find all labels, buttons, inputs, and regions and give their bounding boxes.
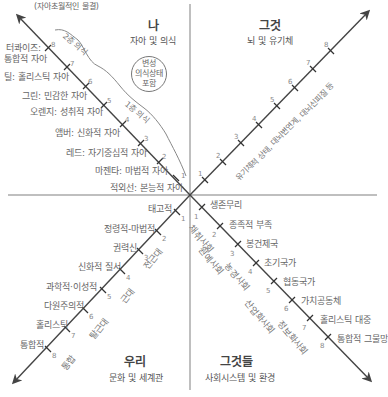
- social-level-5: 협동국가: [283, 277, 315, 287]
- lr-num-2: 2: [212, 231, 216, 239]
- ur-num-8: 8: [324, 41, 328, 49]
- culture-level-8: 통합적: [20, 340, 44, 350]
- ur-num-1: 1: [198, 170, 202, 178]
- ll-num-1: 1: [181, 215, 185, 223]
- culture-level-6: 다원주의적: [44, 301, 84, 311]
- culture-level-2: 정령적-마법적: [104, 224, 155, 234]
- lr-num-5: 5: [266, 287, 270, 295]
- ll-num-8: 8: [52, 352, 56, 360]
- level-7-label: 틸: 홀리스틱 자아: [4, 72, 69, 82]
- quadrant-title-we: 우리: [115, 352, 155, 369]
- ll-num-2: 2: [162, 235, 166, 243]
- level-2-label: 마젠타: 마법적 자아: [95, 166, 168, 176]
- lr-num-4: 4: [248, 268, 252, 276]
- lr-num-8: 8: [320, 342, 324, 350]
- circle-line-3: 포함: [142, 79, 156, 89]
- quadrant-subtitle-we: 문화 및 세계관: [100, 371, 172, 384]
- ll-num-4: 4: [126, 274, 130, 282]
- quadrant-subtitle-its: 사회시스템 및 환경: [195, 371, 285, 384]
- circle-line-2: 의식상태: [135, 69, 163, 79]
- ur-num-5: 5: [270, 96, 274, 104]
- ul-num-4: 4: [125, 116, 129, 124]
- ul-num-5: 5: [107, 97, 111, 105]
- ll-num-5: 5: [107, 293, 111, 301]
- level-3-label: 레드: 자기중심적 자아: [66, 148, 147, 158]
- social-level-4: 초기국가: [264, 258, 296, 268]
- ul-num-8: 8: [51, 41, 55, 49]
- ll-num-7: 7: [71, 332, 75, 340]
- quadrant-subtitle-i: 자아 및 의식: [118, 34, 188, 47]
- ur-num-4: 4: [252, 115, 256, 123]
- ul-num-6: 6: [88, 78, 92, 86]
- culture-level-7: 홀리스틱: [36, 320, 68, 330]
- ul-num-7: 7: [70, 60, 74, 68]
- level-6-label: 그린: 민감한 자아: [22, 91, 87, 101]
- transpersonal-wave-note: (자아초월적인 물결): [34, 2, 99, 12]
- level-1-label: 적외선: 본능적 자아: [110, 183, 183, 193]
- culture-level-5: 과학적·이성적: [46, 282, 97, 292]
- altered-states-note: 변성 의식상태 포함: [131, 56, 167, 92]
- circle-line-1: 변성: [142, 59, 156, 69]
- level-8-label-line1: 터콰이즈:: [6, 43, 41, 53]
- ur-num-7: 7: [306, 59, 310, 67]
- ul-num-2: 2: [162, 153, 166, 161]
- quadrant-subtitle-it: 뇌 및 유기체: [232, 34, 308, 47]
- ll-num-6: 6: [89, 313, 93, 321]
- social-level-1: 생존무리: [210, 200, 242, 210]
- social-level-7: 홀리스틱 대중: [320, 315, 371, 325]
- level-5-label: 오렌지: 성취적 자아: [30, 107, 103, 117]
- lr-num-1: 1: [194, 213, 198, 221]
- level-8-label-line2: 통합적 자아: [4, 54, 47, 64]
- lr-num-7: 7: [302, 324, 306, 332]
- social-level-8: 통합적 그물망: [337, 334, 388, 344]
- lr-num-3: 3: [230, 250, 234, 258]
- quadrant-title-its: 그것들: [206, 352, 266, 369]
- social-level-2: 종족적 부족: [229, 220, 272, 230]
- social-level-6: 가치공동체: [301, 296, 341, 306]
- level-4-label: 앰버: 신화적 자아: [55, 128, 120, 138]
- quadrant-title-i: 나: [133, 16, 173, 33]
- ul-num-1: 1: [181, 172, 185, 180]
- ur-num-6: 6: [288, 78, 292, 86]
- ur-num-3: 3: [234, 133, 238, 141]
- lr-num-6: 6: [284, 305, 288, 313]
- ul-num-3: 3: [144, 135, 148, 143]
- culture-level-3: 권력신: [113, 243, 137, 253]
- culture-level-1: 태고적: [148, 204, 172, 214]
- social-level-3: 봉건제국: [246, 239, 278, 249]
- culture-level-4: 신화적 질서: [78, 262, 121, 272]
- ur-num-2: 2: [216, 152, 220, 160]
- quadrant-title-it: 그것: [245, 16, 295, 33]
